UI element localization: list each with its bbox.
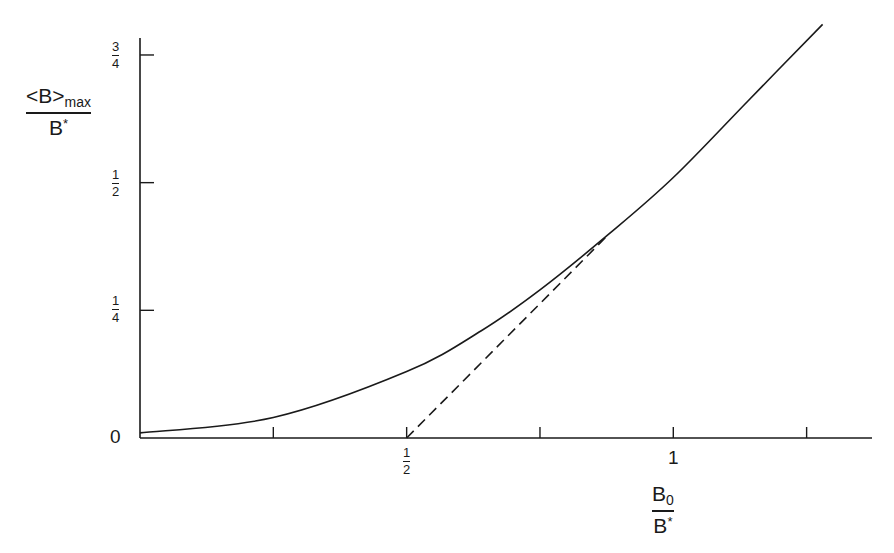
y-axis-title: <B>max B* — [26, 84, 91, 140]
y-title-denominator: B — [49, 116, 63, 139]
denominator: 2 — [112, 185, 119, 199]
x-title-subscript: 0 — [666, 492, 674, 508]
tangent-dashed-line — [407, 234, 610, 438]
fraction-bar — [652, 510, 674, 512]
fraction-bar — [26, 112, 91, 114]
chart-plot-area — [0, 0, 894, 553]
denominator: 4 — [112, 311, 119, 325]
x-title-numerator: B — [652, 482, 666, 505]
denominator: 4 — [112, 57, 119, 71]
y-tick-label-0: 0 — [110, 426, 121, 448]
numerator: 3 — [112, 40, 119, 54]
y-tick-label-1-4: 14 — [112, 294, 119, 325]
y-tick-label-3-4: 34 — [112, 40, 119, 71]
y-tick-label-1-2: 12 — [112, 168, 119, 199]
x-title-superscript: * — [667, 514, 672, 529]
denominator: 2 — [403, 463, 410, 477]
x-title-denominator: B — [653, 514, 667, 537]
y-title-subscript: max — [65, 94, 91, 110]
y-title-superscript: * — [63, 116, 68, 131]
numerator: 1 — [403, 446, 410, 460]
numerator: 1 — [112, 294, 119, 308]
x-tick-label-1: 1 — [668, 447, 679, 469]
numerator: 1 — [112, 168, 119, 182]
x-tick-label-1-2: 12 — [403, 446, 410, 477]
data-curve — [140, 24, 823, 433]
y-title-numerator: <B> — [26, 84, 65, 107]
x-axis-title: B0 B* — [652, 482, 674, 538]
